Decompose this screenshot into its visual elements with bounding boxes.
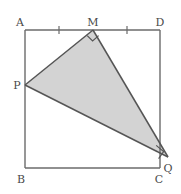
vertex-label-a: A: [15, 16, 25, 29]
shaded-quadrilateral-pmqr: [25, 30, 168, 157]
vertex-label-b: B: [17, 173, 25, 186]
vertex-label-p: P: [13, 79, 21, 92]
geometry-figure-container: A M D P B C Q: [0, 0, 181, 194]
geometry-diagram: A M D P B C Q: [0, 0, 181, 194]
vertex-label-d: D: [156, 16, 165, 29]
vertex-label-c: C: [155, 173, 163, 186]
vertex-label-q: Q: [163, 162, 172, 175]
vertex-label-m: M: [87, 16, 98, 29]
